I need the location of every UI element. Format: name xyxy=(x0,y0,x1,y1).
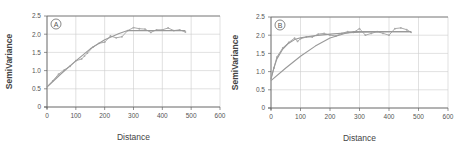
y-tick-label: 0.5 xyxy=(256,86,265,93)
y-tick-label: 1.0 xyxy=(32,67,41,74)
x-tick-label: 300 xyxy=(354,113,365,120)
data-point xyxy=(104,41,106,43)
data-point xyxy=(370,32,372,34)
x-axis-title: Distance xyxy=(117,132,150,142)
y-tick-label: 2.5 xyxy=(256,13,265,20)
y-axis-title: SemiVariance xyxy=(230,35,240,91)
data-point xyxy=(365,34,367,36)
svg-text:B: B xyxy=(278,22,283,29)
model-series-line xyxy=(271,32,411,81)
gridlines xyxy=(47,16,220,107)
x-tick-label: 600 xyxy=(215,112,226,119)
x-tick-label: 400 xyxy=(157,112,168,119)
data-point xyxy=(382,32,384,34)
y-tick-label: 0 xyxy=(37,103,41,110)
y-tick-label: 1.5 xyxy=(256,50,265,57)
data-point xyxy=(167,27,169,29)
data-point xyxy=(323,32,325,34)
y-tick-label: 0 xyxy=(261,104,265,111)
x-tick-label: 600 xyxy=(443,113,454,120)
data-point xyxy=(359,28,361,30)
semivariogram-figure: 010020030040050060000.51.01.52.02.5Dista… xyxy=(0,0,469,148)
svg-text:A: A xyxy=(54,21,59,28)
empirical-series-line xyxy=(47,28,185,87)
y-tick-label: 0.5 xyxy=(32,85,41,92)
x-tick-label: 400 xyxy=(384,113,395,120)
chart-panel-b: 010020030040050060000.51.01.52.02.5Dista… xyxy=(230,13,454,143)
data-point xyxy=(86,52,88,54)
data-point xyxy=(138,28,140,30)
panel-label-b: B xyxy=(275,20,285,30)
y-tick-label: 2.5 xyxy=(32,12,41,19)
y-axis-title: SemiVariance xyxy=(4,34,14,90)
model-series-line xyxy=(47,31,185,87)
x-axis-title: Distance xyxy=(343,133,376,143)
data-point xyxy=(185,31,187,33)
x-tick-label: 200 xyxy=(325,113,336,120)
data-point xyxy=(394,28,396,30)
chart-panel-a: 010020030040050060000.51.01.52.02.5Dista… xyxy=(4,12,226,142)
data-point xyxy=(406,29,408,31)
data-point xyxy=(115,37,117,39)
data-point xyxy=(81,58,83,60)
x-tick-label: 0 xyxy=(45,112,49,119)
data-point xyxy=(150,31,152,33)
gridlines xyxy=(271,17,448,108)
x-tick-label: 100 xyxy=(70,112,81,119)
panel-label-a: A xyxy=(51,19,61,29)
data-point xyxy=(400,27,402,29)
data-point xyxy=(84,55,86,57)
data-point xyxy=(133,27,135,29)
x-tick-label: 200 xyxy=(99,112,110,119)
x-tick-label: 300 xyxy=(128,112,139,119)
x-tick-label: 0 xyxy=(269,113,273,120)
y-tick-label: 1.5 xyxy=(32,49,41,56)
data-point xyxy=(121,36,123,38)
x-tick-label: 500 xyxy=(186,112,197,119)
x-tick-label: 500 xyxy=(413,113,424,120)
data-point xyxy=(294,37,296,39)
data-point xyxy=(297,40,299,42)
x-tick-label: 100 xyxy=(295,113,306,120)
data-point xyxy=(388,34,390,36)
y-tick-label: 2.0 xyxy=(32,31,41,38)
y-tick-label: 1.0 xyxy=(256,68,265,75)
data-point xyxy=(144,28,146,30)
y-tick-label: 2.0 xyxy=(256,32,265,39)
